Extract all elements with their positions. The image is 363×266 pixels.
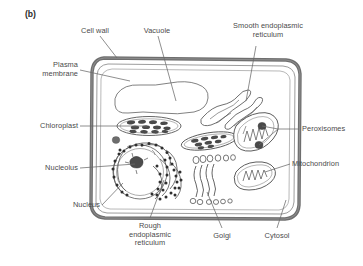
- leader-nucleus: [102, 183, 123, 205]
- label-smooth-er: Smooth endoplasmic reticulum: [233, 22, 303, 39]
- label-chloroplast: Chloroplast: [40, 122, 78, 131]
- golgi-shape: [190, 155, 235, 205]
- leader-golgi: [207, 192, 222, 228]
- label-nucleus: Nucleus: [73, 201, 100, 210]
- label-peroxisomes: Peroxisomes: [302, 125, 345, 134]
- label-nucleolus: Nucleolus: [45, 164, 78, 173]
- label-vacuole: Vacuole: [144, 27, 171, 36]
- cytosolic-granule-shape: [112, 137, 120, 144]
- label-golgi: Golgi: [213, 232, 231, 241]
- label-cytosol: Cytosol: [265, 232, 290, 241]
- label-rough-er: Rough endoplasmic reticulum: [129, 222, 171, 248]
- chloroplast-shape: [180, 129, 238, 154]
- leader-cell-wall: [100, 36, 117, 58]
- label-mitochondrion: Mitochondrion: [292, 160, 339, 169]
- vacuole-shape: [115, 82, 208, 114]
- mitochondrion-shape: [234, 162, 275, 190]
- label-cell-wall: Cell wall: [81, 27, 109, 36]
- label-plasma-membrane: Plasma membrane: [42, 61, 78, 78]
